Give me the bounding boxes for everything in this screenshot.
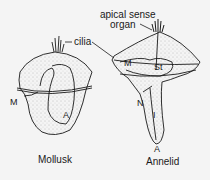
caption-annelid: Annelid [146,156,179,167]
label-annelid-mouth: M [124,58,132,68]
label-intestine: I [153,110,156,120]
label-mollusk-anus: A [63,110,69,120]
apical-leader [140,24,152,30]
label-apical-line2: organ [110,20,136,30]
diagram-art [0,0,210,180]
label-annelid-anus: A [154,144,160,154]
label-stomach: St [154,62,163,72]
label-cilia: cilia [74,37,91,47]
mollusk-cilia-tuft [52,36,64,52]
cilia-leader-annelid [92,42,114,58]
label-nephridium: N [137,98,144,108]
annelid-larva [112,32,200,144]
label-mollusk-mouth: M [10,97,18,107]
caption-mollusk: Mollusk [38,154,72,165]
mollusk-larva [17,52,92,135]
apical-sense-organ-tuft [152,19,164,32]
